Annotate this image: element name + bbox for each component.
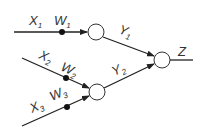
label-x1: X1 <box>28 13 42 30</box>
label-y1: Y1 <box>116 22 134 42</box>
edge-x2-to-node2 <box>22 58 89 88</box>
node-hidden-1 <box>88 24 104 40</box>
label-z: Z <box>177 44 187 59</box>
neural-network-diagram: X1 W1 X2 W2 X3 W3 Y1 Y2 Z <box>0 0 201 135</box>
label-w2: W2 <box>58 59 81 82</box>
weight-dot-w1 <box>59 29 65 35</box>
label-w1: W1 <box>54 13 71 30</box>
label-w3: W3 <box>47 83 70 106</box>
node-hidden-2 <box>89 84 105 100</box>
node-output <box>154 52 170 68</box>
weight-dot-w3 <box>64 104 70 110</box>
label-x3: X3 <box>26 96 46 117</box>
